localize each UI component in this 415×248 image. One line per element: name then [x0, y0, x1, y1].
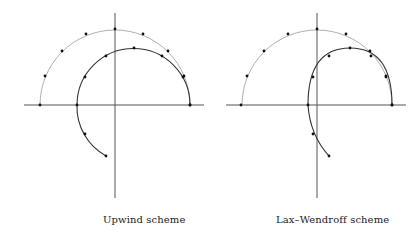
lax-wendroff-scheme-symbol-curve — [308, 48, 392, 156]
upwind-exact-point — [114, 28, 117, 31]
stability-diagram-figure: Upwind scheme Lax–Wendroff scheme — [0, 0, 415, 248]
lax-wendroff-scheme-point — [391, 104, 394, 107]
lax-wendroff-exact-point — [345, 33, 348, 36]
lax-wendroff-scheme-point — [385, 76, 388, 79]
lax-wendroff-exact-point — [287, 33, 290, 36]
upwind-exact-point — [39, 104, 42, 107]
upwind-scheme-point — [76, 104, 79, 107]
lax-wendroff-scheme-point — [328, 55, 331, 58]
lax-wendroff-exact-point — [316, 28, 319, 31]
upwind-scheme-point — [133, 47, 136, 50]
upwind-scheme-point — [105, 155, 108, 158]
upwind-scheme-point — [161, 55, 164, 58]
lax-wendroff-exact-point — [263, 50, 266, 53]
lax-wendroff-scheme-point — [328, 155, 331, 158]
upwind-scheme-point — [84, 133, 87, 136]
lax-wendroff-scheme-point — [312, 133, 315, 136]
lax-wendroff-exact-point — [240, 104, 243, 107]
lax-wendroff-exact-point — [369, 50, 372, 53]
lax-wendroff-exact-point — [246, 75, 249, 78]
upwind-exact-point — [142, 33, 145, 36]
upwind-exact-point — [85, 33, 88, 36]
caption-upwind: Upwind scheme — [103, 214, 185, 225]
upwind-scheme-symbol-curve — [77, 48, 190, 156]
lax-wendroff-scheme-point — [312, 76, 315, 79]
upwind-scheme-point — [189, 104, 192, 107]
upwind-exact-point — [61, 50, 64, 53]
upwind-scheme-point — [183, 75, 186, 78]
lax-wendroff-scheme-point — [349, 47, 352, 50]
lax-wendroff-scheme-point — [370, 55, 373, 58]
upwind-exact-point — [44, 75, 47, 78]
upwind-scheme-point — [105, 55, 108, 58]
lax-wendroff-scheme-point — [307, 104, 310, 107]
diagram-canvas — [0, 0, 415, 248]
upwind-exact-point — [167, 50, 170, 53]
caption-lax-wendroff: Lax–Wendroff scheme — [276, 214, 389, 225]
upwind-scheme-point — [84, 76, 87, 79]
